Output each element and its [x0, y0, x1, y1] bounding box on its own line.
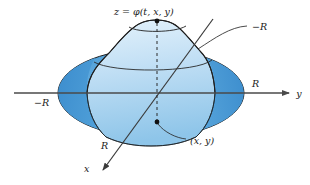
math-diagram-svg: z = φ(t, x, y) −R −R R R y x (x, y) — [0, 0, 310, 185]
plane-point-dot — [155, 120, 160, 125]
y-axis-label: y — [295, 88, 302, 99]
surface-body — [87, 20, 215, 146]
r-x-label: R — [100, 140, 108, 151]
apex-point-dot — [155, 19, 160, 24]
r-right-label: R — [251, 78, 259, 89]
surface-equation-label: z = φ(t, x, y) — [113, 6, 174, 17]
neg-r-leader-label: −R — [252, 21, 267, 32]
neg-r-left-label: −R — [34, 97, 49, 108]
x-axis-label: x — [84, 163, 90, 174]
surface-group — [87, 20, 215, 146]
point-coordinates-label: (x, y) — [190, 135, 214, 146]
figure-container: z = φ(t, x, y) −R −R R R y x (x, y) — [0, 0, 310, 185]
